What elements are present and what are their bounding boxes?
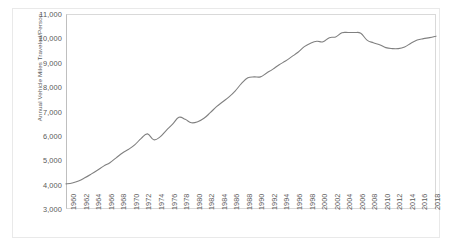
x-axis-tick-label: 2010	[383, 176, 392, 210]
x-axis-tick-label: 1970	[132, 176, 141, 210]
series-line-annual-vmt-per-person	[66, 32, 436, 184]
x-axis-tick-label: 1960	[69, 176, 78, 210]
x-axis-tick-label: 2008	[370, 176, 379, 210]
y-axis-tick-label: 4,000	[2, 180, 62, 189]
x-axis-tick-label: 1972	[144, 176, 153, 210]
y-axis-tick-label: 8,000	[2, 83, 62, 92]
x-axis-tick-label: 1966	[107, 176, 116, 210]
x-axis-tick-label: 2016	[420, 176, 429, 210]
x-axis-tick-label: 1986	[232, 176, 241, 210]
x-axis-tick-label: 1984	[220, 176, 229, 210]
x-axis-tick-label: 2002	[333, 176, 342, 210]
x-axis-tick-label: 1992	[270, 176, 279, 210]
x-axis-tick-label: 2014	[408, 176, 417, 210]
x-axis-tick-label: 1978	[182, 176, 191, 210]
x-axis-tick-label: 1980	[195, 176, 204, 210]
y-axis-tick-label: 5,000	[2, 156, 62, 165]
x-axis-tick-labels: 1960196219641966196819701972197419761978…	[66, 210, 436, 250]
x-axis-tick-label: 1998	[308, 176, 317, 210]
x-axis-tick-label: 1962	[82, 176, 91, 210]
y-axis-tick-labels: 3,0004,0005,0006,0007,0008,0009,00010,00…	[0, 14, 62, 209]
x-axis-tick-label: 1988	[245, 176, 254, 210]
x-axis-tick-label: 2006	[358, 176, 367, 210]
x-axis-tick-label: 1974	[157, 176, 166, 210]
y-axis-tick-label: 11,000	[2, 10, 62, 19]
x-axis-tick-label: 2000	[320, 176, 329, 210]
x-axis-tick-label: 1976	[170, 176, 179, 210]
x-axis-tick-label: 2012	[395, 176, 404, 210]
chart-container: Annual Vehicle Miles Traveled/Person 3,0…	[0, 0, 455, 250]
x-axis-tick-label: 2004	[345, 176, 354, 210]
x-axis-tick-label: 1990	[257, 176, 266, 210]
y-axis-tick-label: 7,000	[2, 107, 62, 116]
x-axis-tick-label: 1968	[119, 176, 128, 210]
x-axis-tick-label: 1996	[295, 176, 304, 210]
y-axis-tick-label: 3,000	[2, 205, 62, 214]
y-axis-tick-label: 6,000	[2, 131, 62, 140]
x-axis-tick-label: 1994	[282, 176, 291, 210]
x-axis-tick-label: 1964	[94, 176, 103, 210]
x-axis-tick-label: 2018	[433, 176, 442, 210]
y-axis-tick-label: 9,000	[2, 58, 62, 67]
x-axis-tick-label: 1982	[207, 176, 216, 210]
y-axis-tick-label: 10,000	[2, 34, 62, 43]
